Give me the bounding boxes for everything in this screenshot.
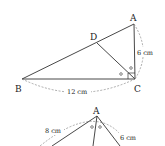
angle-mark-2	[99, 126, 102, 129]
length-label-bc: 12 cm	[67, 88, 87, 96]
point-label-c: C	[134, 84, 141, 94]
point-label-a: A	[129, 13, 137, 23]
angle-mark-2	[130, 67, 133, 70]
figure-triangle-abc: A B C D 6 cm 12 cm	[15, 13, 156, 96]
length-label-right: 6 cm	[120, 134, 136, 142]
angle-mark-1	[91, 126, 94, 129]
geometry-diagram: A B C D 6 cm 12 cm A 8 cm 6 cm	[0, 0, 165, 146]
side-ac	[134, 24, 135, 79]
length-label-left: 8 cm	[45, 127, 61, 135]
point-label-b: B	[15, 84, 22, 94]
length-label-ac: 6 cm	[137, 49, 153, 57]
point-label-d: D	[90, 32, 97, 42]
bisector	[93, 116, 97, 146]
figure-triangle-partial: A 8 cm 6 cm	[40, 106, 139, 146]
side-ab	[22, 24, 134, 79]
point-label-a2: A	[92, 106, 100, 116]
side-right	[97, 116, 120, 146]
angle-mark-1	[120, 73, 123, 76]
bisector-cd	[97, 43, 135, 79]
